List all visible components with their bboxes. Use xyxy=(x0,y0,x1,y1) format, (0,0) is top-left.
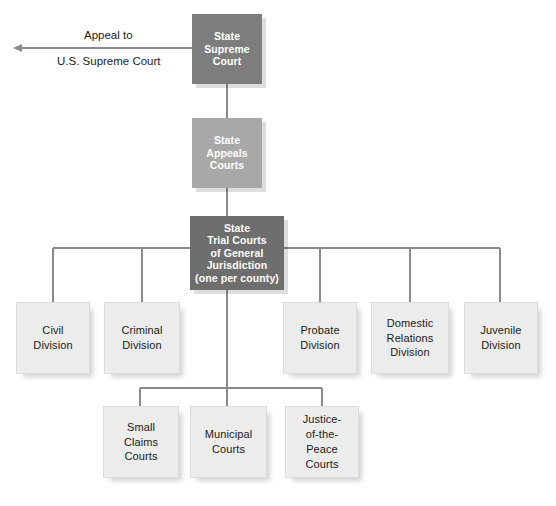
node-municipal-courts[interactable]: Municipal Courts xyxy=(190,406,267,478)
node-label: Small Claims Courts xyxy=(124,420,158,465)
node-juvenile-division[interactable]: Juvenile Division xyxy=(464,302,538,374)
node-label: State Supreme Court xyxy=(204,30,250,67)
node-civil-division[interactable]: Civil Division xyxy=(16,302,90,374)
node-label: State Trial Courts of General Jurisdicti… xyxy=(195,222,279,284)
node-small-claims-courts[interactable]: Small Claims Courts xyxy=(103,406,179,478)
node-label: Juvenile Division xyxy=(480,323,521,353)
left-arrow-icon xyxy=(13,44,22,52)
court-system-diagram: Appeal to U.S. Supreme Court State Supre… xyxy=(0,0,556,506)
node-justice-of-the-peace-courts[interactable]: Justice- of-the- Peace Courts xyxy=(285,406,359,478)
node-label: Justice- of-the- Peace Courts xyxy=(303,412,342,471)
node-label: Domestic Relations Division xyxy=(387,316,434,361)
appeal-caption-top: Appeal to xyxy=(84,29,133,41)
node-state-supreme-court[interactable]: State Supreme Court xyxy=(192,14,262,84)
node-criminal-division[interactable]: Criminal Division xyxy=(104,302,180,374)
node-probate-division[interactable]: Probate Division xyxy=(283,302,357,374)
appeal-caption-bottom: U.S. Supreme Court xyxy=(57,55,161,67)
node-label: Civil Division xyxy=(33,323,72,353)
node-state-trial-courts[interactable]: State Trial Courts of General Jurisdicti… xyxy=(190,216,284,290)
node-domestic-relations-division[interactable]: Domestic Relations Division xyxy=(371,302,449,374)
node-label: State Appeals Courts xyxy=(206,134,248,171)
node-label: Criminal Division xyxy=(121,323,162,353)
node-label: Probate Division xyxy=(300,323,339,353)
node-label: Municipal Courts xyxy=(205,427,252,457)
node-state-appeals-courts[interactable]: State Appeals Courts xyxy=(192,118,262,188)
